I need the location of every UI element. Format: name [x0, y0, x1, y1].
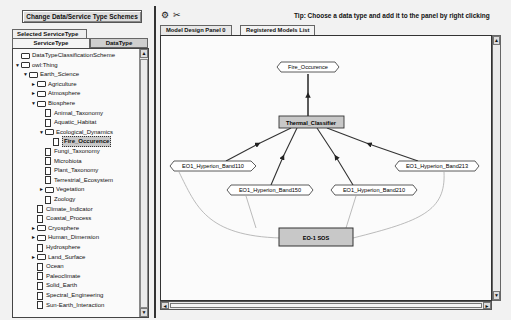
tab-servicetype[interactable]: ServiceType	[12, 38, 90, 48]
tree-item[interactable]: Solid_Earth	[30, 281, 77, 290]
tree-item-label: Vegetation	[56, 185, 84, 194]
tree-item[interactable]: Hydrosphere	[30, 243, 80, 252]
expanded-toggle-icon[interactable]: ▼	[30, 99, 37, 108]
change-schemes-button[interactable]: Change Data/Service Type Schemes	[22, 10, 142, 23]
collapsed-toggle-icon[interactable]: ►	[30, 253, 37, 262]
document-icon	[53, 138, 59, 146]
tree-item-label: Agriculture	[48, 80, 77, 89]
tree-item[interactable]: ►Atmosphere	[30, 89, 80, 98]
tree-item[interactable]: DataTypeClassificationScheme	[14, 51, 115, 60]
tree-item[interactable]: Aquatic_Habitat	[38, 118, 96, 127]
collapsed-toggle-icon[interactable]: ►	[30, 233, 37, 242]
model-design-area: ⚙ ✂ Tip: Choose a data type and add it t…	[154, 6, 511, 318]
folder-icon	[37, 235, 46, 241]
collapsed-toggle-icon[interactable]: ►	[30, 224, 37, 233]
tree-item[interactable]: ►Agriculture	[30, 80, 77, 89]
folder-icon	[37, 254, 46, 260]
expanded-toggle-icon[interactable]: ▼	[38, 128, 45, 137]
expanded-toggle-icon[interactable]: ▼	[14, 61, 21, 70]
tree-item[interactable]: ►Human_Dimension	[30, 233, 99, 242]
tree-item[interactable]: Coastal_Process	[30, 214, 91, 223]
node-band150[interactable]: EO1_Hyperion_Band150	[227, 185, 313, 195]
scroll-left-button[interactable]: ◄	[161, 302, 169, 309]
tree-item[interactable]: Microbiota	[38, 157, 82, 166]
tree-item[interactable]: Zoology	[38, 195, 75, 204]
scroll-up-button[interactable]: ▲	[493, 36, 500, 45]
tree-item[interactable]: ▼Biosphere	[30, 99, 75, 108]
document-icon	[37, 205, 43, 213]
expanded-toggle-icon[interactable]: ▼	[22, 70, 29, 79]
document-icon	[37, 244, 43, 252]
tab-selected-servicetype[interactable]: Selected ServiceType	[12, 29, 87, 38]
tree-item[interactable]: Paleoclimate	[30, 272, 80, 281]
node-eo1-sos[interactable]: EO-1 SOS	[279, 228, 353, 246]
tree-item[interactable]: Plant_Taxonomy	[38, 166, 98, 175]
folder-icon	[21, 62, 30, 68]
node-label: EO-1 SOS	[303, 235, 330, 241]
tree-vertical-scrollbar[interactable]: ▲ ▼	[139, 49, 148, 317]
tree-item[interactable]: ►Cryosphere	[30, 224, 79, 233]
folder-icon	[29, 72, 38, 78]
node-band213[interactable]: EO1_Hyperion_Band213	[395, 161, 479, 171]
canvas-vertical-scrollbar[interactable]: ▲ ▼	[492, 35, 501, 301]
node-thermal-classifier[interactable]: Thermal_Classifier	[279, 116, 344, 128]
tree-item[interactable]: ►Land_Surface	[30, 253, 85, 262]
tree-item[interactable]: Climate_Indicator	[30, 205, 93, 214]
collapsed-toggle-icon[interactable]: ►	[30, 89, 37, 98]
tree-item-label: Atmosphere	[48, 89, 80, 98]
tree-item[interactable]: Animal_Taxonomy	[38, 109, 103, 118]
tree-item-label: DataTypeClassificationScheme	[32, 51, 115, 60]
folder-icon	[45, 187, 54, 193]
type-tree: DataTypeClassificationScheme▼owl:Thing▼E…	[12, 48, 149, 318]
folder-icon	[21, 53, 30, 59]
node-label: EO1_Hyperion_Band110	[182, 163, 244, 169]
cut-icon[interactable]: ✂	[172, 10, 182, 20]
document-icon	[37, 301, 43, 309]
scroll-thumb[interactable]	[140, 59, 148, 308]
tree-item[interactable]: Terrestrial_Ecosystem	[38, 176, 113, 185]
tree-item-label: Solid_Earth	[46, 281, 77, 290]
document-icon	[45, 196, 51, 204]
tree-item[interactable]: ▼Earth_Science	[22, 70, 79, 79]
tree-item-label: Cryosphere	[48, 224, 79, 233]
tab-registered-models[interactable]: Registered Models List	[240, 25, 315, 35]
tip-text: Tip: Choose a data type and add it to th…	[294, 12, 490, 19]
scroll-down-button[interactable]: ▼	[493, 291, 500, 300]
node-band110[interactable]: EO1_Hyperion_Band110	[170, 161, 256, 171]
folder-icon	[37, 225, 46, 231]
scroll-up-button[interactable]: ▲	[140, 49, 148, 58]
node-band210[interactable]: EO1_Hyperion_Band210	[331, 185, 417, 195]
node-label: EO1_Hyperion_Band213	[406, 163, 468, 169]
folder-icon	[37, 101, 46, 107]
document-icon	[45, 157, 51, 165]
tree-item[interactable]: ►Vegetation	[38, 185, 84, 194]
tree-item[interactable]: ▼owl:Thing	[14, 61, 58, 70]
tree-item[interactable]: Fire_Occurence	[46, 137, 111, 146]
model-canvas[interactable]: Fire_Occurence Thermal_Classifier EO1_Hy…	[160, 35, 492, 301]
node-label: Fire_Occurence	[288, 64, 328, 70]
scroll-thumb[interactable]	[170, 303, 482, 308]
collapsed-toggle-icon[interactable]: ►	[30, 80, 37, 89]
document-icon	[37, 272, 43, 280]
collapsed-toggle-icon[interactable]: ►	[38, 185, 45, 194]
document-icon	[45, 176, 51, 184]
tree-item-label: Terrestrial_Ecosystem	[54, 176, 113, 185]
tree-item[interactable]: Sun-Earth_Interaction	[30, 301, 104, 310]
document-icon	[37, 215, 43, 223]
tab-model-design-panel[interactable]: Model Design Panel 0	[160, 25, 232, 35]
document-icon	[45, 109, 51, 117]
scroll-right-button[interactable]: ►	[483, 302, 491, 309]
node-fire-occurence[interactable]: Fire_Occurence	[277, 62, 339, 72]
tree-item[interactable]: Ocean	[30, 262, 64, 271]
document-icon	[37, 282, 43, 290]
tree-item[interactable]: Spectral_Engineering	[30, 291, 103, 300]
tab-datatype[interactable]: DataType	[90, 38, 148, 48]
document-icon	[37, 263, 43, 271]
tree-item-label: owl:Thing	[32, 61, 58, 70]
tree-item-label: Zoology	[54, 195, 75, 204]
tree-item[interactable]: Fungi_Taxonomy	[38, 147, 100, 156]
scroll-down-button[interactable]: ▼	[140, 308, 148, 317]
canvas-horizontal-scrollbar[interactable]: ◄ ►	[160, 301, 492, 310]
gear-icon[interactable]: ⚙	[160, 10, 170, 20]
tree-item-label: Fungi_Taxonomy	[54, 147, 100, 156]
